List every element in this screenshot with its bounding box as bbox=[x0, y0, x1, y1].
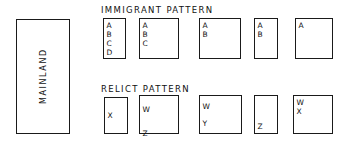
immigrant-box-2-letters: ABC bbox=[143, 21, 148, 49]
mainland-label: MAINLAND bbox=[17, 20, 69, 133]
immigrant-box-3: AB bbox=[199, 18, 241, 59]
immigrant-box-2: ABC bbox=[139, 18, 179, 59]
relict-box-1: X bbox=[104, 97, 128, 134]
relict-box-5-letters: WX bbox=[297, 98, 304, 116]
relict-box-4: Z bbox=[254, 95, 278, 134]
relict-box-4-letters: Z bbox=[258, 122, 263, 131]
immigrant-box-5: A bbox=[295, 18, 333, 59]
relict-box-2-letters: WZ bbox=[143, 98, 150, 143]
immigrant-box-1-letters: ABCD bbox=[107, 21, 113, 58]
immigrant-box-1: ABCD bbox=[103, 18, 126, 59]
mainland-box: MAINLAND bbox=[16, 19, 70, 134]
species-pattern-diagram: MAINLAND IMMIGRANT PATTERN ABCD ABC AB A… bbox=[0, 0, 340, 142]
immigrant-box-4: AB bbox=[254, 18, 278, 59]
relict-pattern-header: RELICT PATTERN bbox=[101, 85, 190, 94]
relict-box-3-letters: WY bbox=[203, 98, 210, 132]
relict-box-2: WZ bbox=[139, 95, 179, 134]
immigrant-pattern-header: IMMIGRANT PATTERN bbox=[101, 6, 213, 15]
relict-box-1-letters: X bbox=[108, 111, 113, 120]
immigrant-box-3-letters: AB bbox=[203, 21, 208, 39]
relict-box-3: WY bbox=[199, 95, 242, 134]
immigrant-box-5-letters: A bbox=[299, 21, 304, 30]
relict-box-5: WX bbox=[293, 95, 333, 134]
immigrant-box-4-letters: AB bbox=[258, 21, 263, 39]
